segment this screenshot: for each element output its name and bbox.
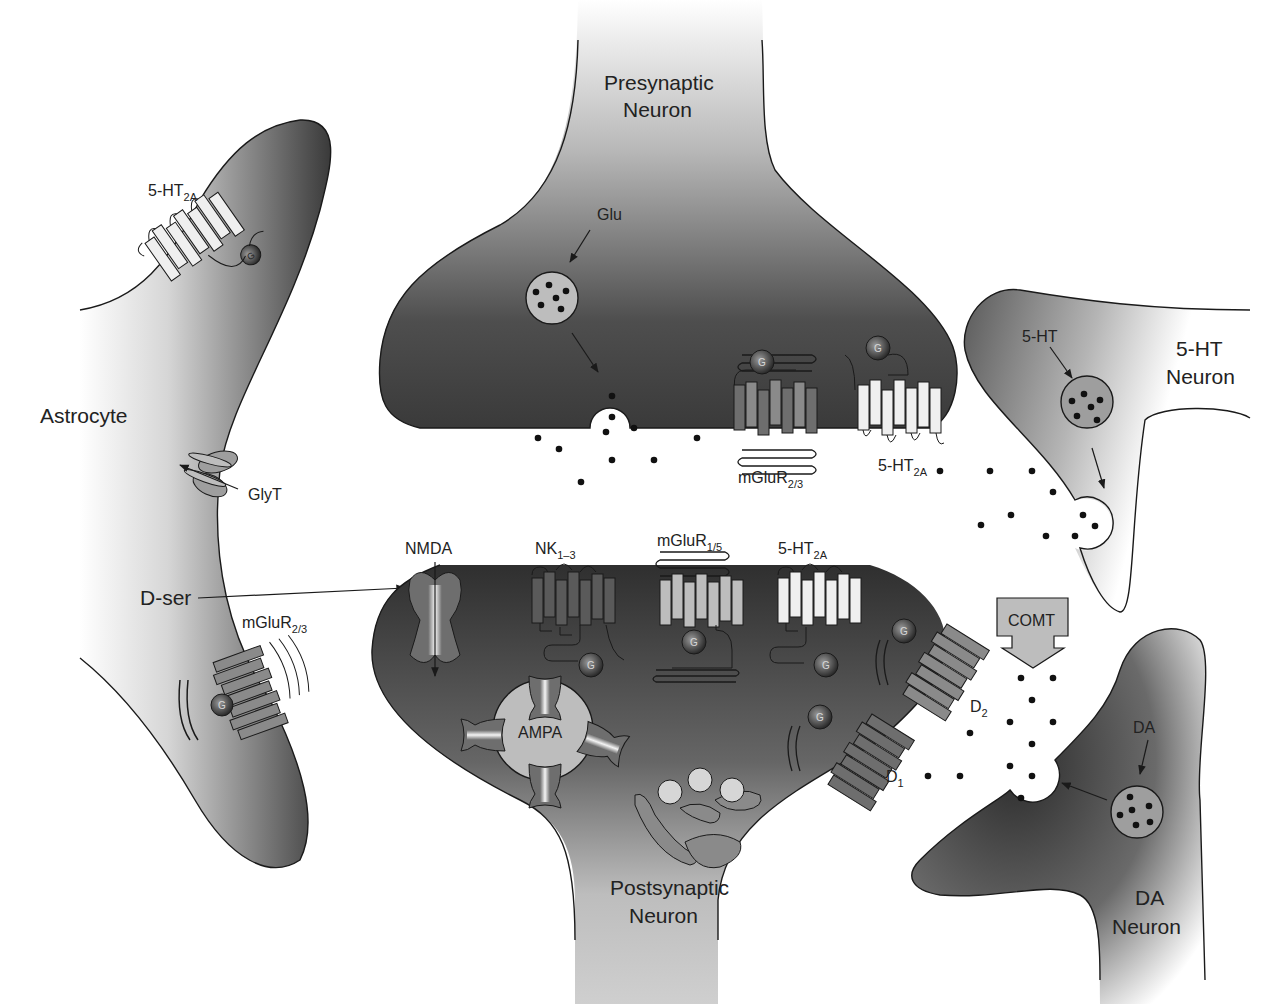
comt-enzyme bbox=[997, 598, 1068, 668]
5ht-neuron-label-line1: 5-HT bbox=[1176, 337, 1223, 360]
5ht-neuron-label-line2: Neuron bbox=[1166, 365, 1235, 388]
da-vesicle bbox=[1111, 786, 1163, 838]
presynaptic-5ht2a-label: 5-HT2A bbox=[878, 457, 928, 478]
g-protein-label: G bbox=[874, 343, 882, 354]
synapse-diagram: G 5-HT2A Astrocyte GlyT D-ser mGluR2/3 G… bbox=[0, 0, 1284, 1004]
g-protein-label: G bbox=[758, 357, 766, 368]
glyt-label: GlyT bbox=[248, 486, 282, 503]
g-protein-label: G bbox=[900, 626, 908, 637]
dser-arrow bbox=[198, 588, 405, 598]
post-5ht2a-label: 5-HT2A bbox=[778, 540, 828, 561]
nmda-label: NMDA bbox=[405, 540, 452, 557]
astrocyte-mglur23-label: mGluR2/3 bbox=[242, 614, 307, 635]
astrocyte-label: Astrocyte bbox=[40, 404, 128, 427]
g-protein-label: G bbox=[816, 712, 824, 723]
5ht-vesicle bbox=[1061, 376, 1113, 428]
g-protein-label: G bbox=[218, 700, 226, 711]
presynaptic-label-line1: Presynaptic bbox=[604, 71, 714, 94]
dser-label: D-ser bbox=[140, 586, 191, 609]
nk-label: NK1–3 bbox=[535, 540, 576, 561]
glu-label: Glu bbox=[597, 206, 622, 223]
da-label: DA bbox=[1133, 719, 1156, 736]
presynaptic-mglur23-label: mGluR2/3 bbox=[738, 469, 803, 490]
5ht-label: 5-HT bbox=[1022, 328, 1058, 345]
d2-label: D2 bbox=[970, 698, 988, 719]
ampa-label: AMPA bbox=[518, 724, 562, 741]
da-neuron-label-line2: Neuron bbox=[1112, 915, 1181, 938]
da-neuron-label-line1: DA bbox=[1135, 886, 1164, 909]
comt-label: COMT bbox=[1008, 612, 1055, 629]
glu-vesicle bbox=[526, 272, 578, 324]
g-protein-label: G bbox=[690, 637, 698, 648]
astrocyte-5ht2a-label: 5-HT2A bbox=[148, 182, 198, 203]
mglur15-label: mGluR1/5 bbox=[657, 532, 722, 553]
postsynaptic-label-line2: Neuron bbox=[629, 904, 698, 927]
g-protein-label: G bbox=[822, 660, 830, 671]
d1-label: D1 bbox=[886, 768, 904, 789]
g-protein-label: G bbox=[587, 660, 595, 671]
presynaptic-label-line2: Neuron bbox=[623, 98, 692, 121]
presynaptic-neuron bbox=[379, 0, 957, 428]
postsynaptic-label-line1: Postsynaptic bbox=[610, 876, 729, 899]
